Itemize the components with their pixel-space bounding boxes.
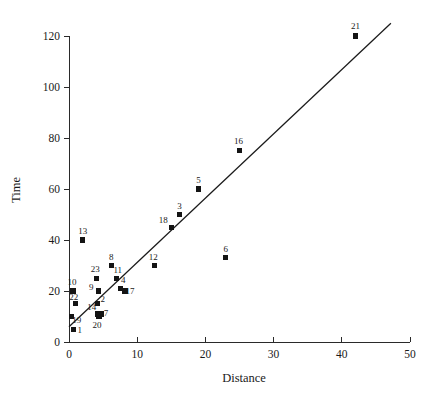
data-point-label: 14 [87,302,97,312]
data-point-marker [94,276,99,281]
data-point-marker [196,186,201,191]
y-tick-label: 60 [49,183,61,195]
data-point-label: 13 [78,226,88,236]
data-point: 17 [122,286,135,296]
data-point-marker [118,286,123,291]
data-point: 1 [71,325,82,335]
data-point: 5 [196,175,201,192]
y-tick-label: 20 [49,285,61,297]
y-tick-label: 120 [43,30,61,42]
data-point: 12 [149,252,158,269]
data-point: 13 [78,226,88,243]
data-point-marker [80,237,85,242]
data-point-marker [96,288,101,293]
x-tick-label: 20 [200,348,212,360]
x-tick-label: 30 [268,348,280,360]
scatter-plot-figure: 02040608010012001020304050 1234567891011… [0,0,437,401]
data-point-label: 6 [224,244,229,254]
data-points-group: 12345678910111213141617181920212223 [68,21,360,335]
data-point: 18 [159,215,174,230]
data-point: 22 [69,292,78,307]
data-point-marker [114,276,119,281]
data-point-label: 22 [69,292,78,302]
data-point-label: 19 [72,315,82,325]
data-point-marker [169,225,174,230]
data-point-label: 7 [104,308,109,318]
data-point-label: 9 [89,282,94,292]
data-point: 23 [91,264,101,281]
data-point-label: 21 [351,21,360,31]
data-point: 16 [234,136,244,154]
data-point-label: 12 [149,252,158,262]
data-point-label: 5 [196,175,201,185]
x-axis-title: Distance [222,371,266,385]
x-tick-label: 40 [336,348,348,360]
data-point-marker [71,327,76,332]
data-point-label: 17 [125,286,135,296]
y-tick-label: 100 [43,81,61,93]
data-point-label: 1 [78,325,83,335]
y-tick-label: 0 [54,336,60,348]
data-point-label: 3 [177,201,182,211]
data-point-label: 16 [234,136,244,146]
data-point-label: 10 [68,277,78,287]
y-tick-label: 40 [49,234,61,246]
data-point-marker [73,301,78,306]
data-point: 9 [89,282,101,294]
data-point-label: 23 [91,264,101,274]
data-point-marker [223,255,228,260]
x-tick-label: 50 [404,348,416,360]
y-axis-title: Time [9,177,23,203]
data-point-marker [152,263,157,268]
data-point-label: 2 [100,294,105,304]
x-tick-label: 0 [66,348,72,360]
regression-line [69,23,391,326]
axes-group: 02040608010012001020304050 [43,30,416,360]
regression-line-group [69,23,391,326]
data-point-label: 11 [113,265,122,275]
data-point-marker [237,148,242,153]
data-point-marker [96,314,101,319]
plot-canvas: 02040608010012001020304050 1234567891011… [0,0,437,401]
data-point: 19 [69,314,82,325]
data-point-marker [177,212,182,217]
data-point-label: 18 [159,215,169,225]
data-point: 21 [351,21,360,39]
data-point: 6 [223,244,228,261]
data-point-label: 8 [109,252,114,262]
data-point: 20 [93,314,103,330]
data-point-marker [353,33,358,38]
data-point-label: 4 [121,275,126,285]
y-tick-label: 80 [49,132,61,144]
data-point-label: 20 [93,320,103,330]
x-tick-label: 10 [131,348,143,360]
data-point: 3 [177,201,182,218]
